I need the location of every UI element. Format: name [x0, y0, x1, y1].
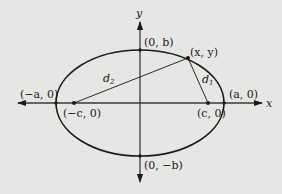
- label-pos-a: (a, 0): [229, 88, 258, 101]
- label-neg-b: (0, −b): [144, 159, 183, 172]
- label-pos-c: (c, 0): [197, 107, 226, 120]
- y-axis-label: y: [135, 7, 143, 20]
- point-neg-b: [138, 154, 142, 158]
- x-axis-label: x: [266, 97, 273, 110]
- focus-pos-c: [206, 101, 210, 105]
- label-d2: d2: [103, 72, 115, 86]
- label-neg-a: (−a, 0): [20, 88, 58, 101]
- label-neg-c: (−c, 0): [63, 107, 101, 120]
- point-pos-a: [222, 101, 226, 105]
- point-pos-b: [138, 48, 142, 52]
- d2-segment: [74, 58, 188, 103]
- focus-neg-c: [72, 101, 76, 105]
- point-neg-a: [54, 101, 58, 105]
- ellipse-diagram: x y (−a, 0) (a, 0) (0, b) (0, −b) (−c, 0…: [0, 0, 282, 194]
- label-pos-b: (0, b): [144, 36, 174, 49]
- label-point-xy: (x, y): [190, 46, 218, 59]
